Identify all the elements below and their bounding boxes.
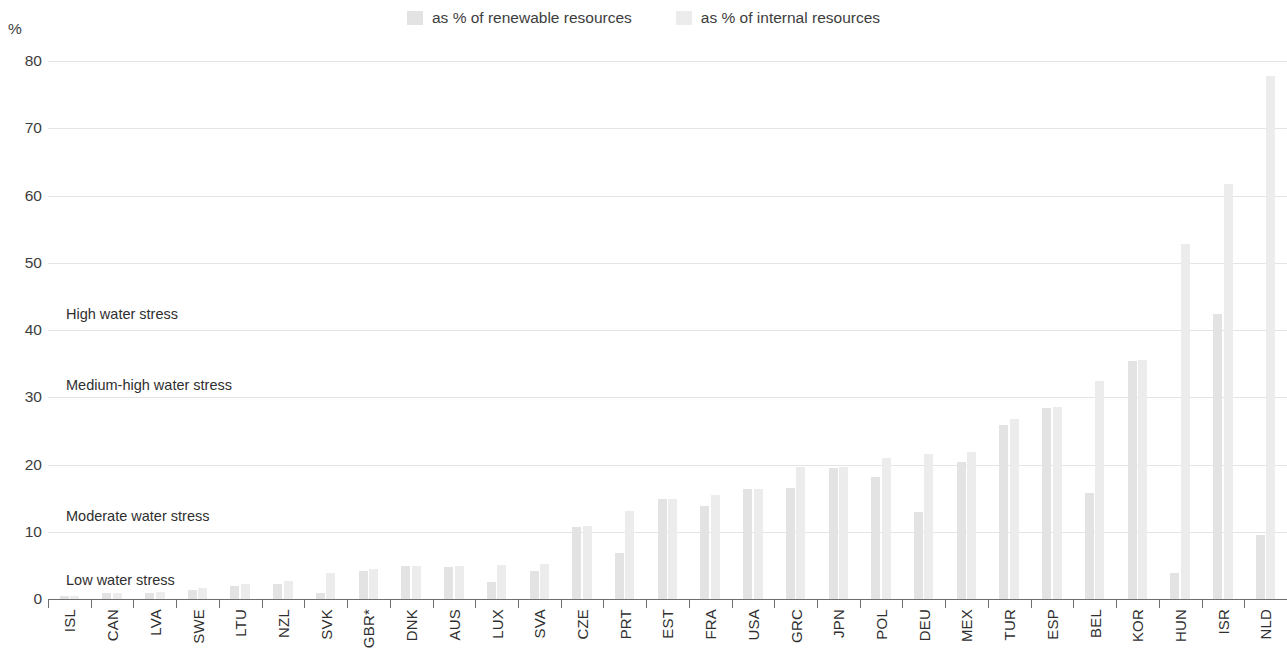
bar[interactable] — [359, 571, 368, 599]
bar-group[interactable] — [646, 61, 689, 599]
bar[interactable] — [871, 477, 880, 599]
bar-group[interactable] — [1244, 61, 1287, 599]
bar[interactable] — [967, 452, 976, 599]
x-axis-tick-label: DNK — [403, 609, 420, 641]
x-axis-label-cell: LVA — [133, 607, 176, 653]
bar-group[interactable] — [561, 61, 604, 599]
bar-group[interactable] — [988, 61, 1031, 599]
bar[interactable] — [444, 567, 453, 599]
bar[interactable] — [583, 526, 592, 599]
y-axis-tick-label: 70 — [2, 119, 42, 137]
x-axis-label-cell: CAN — [91, 607, 134, 653]
bar[interactable] — [1053, 407, 1062, 599]
bar-group[interactable] — [1031, 61, 1074, 599]
bar-group[interactable] — [817, 61, 860, 599]
bar[interactable] — [658, 499, 667, 599]
bar[interactable] — [924, 454, 933, 599]
bar[interactable] — [668, 499, 677, 599]
bar[interactable] — [625, 511, 634, 599]
bar-group[interactable] — [1116, 61, 1159, 599]
x-axis-label-cell: SWE — [176, 607, 219, 653]
bar[interactable] — [839, 467, 848, 599]
bar-group[interactable] — [603, 61, 646, 599]
bar[interactable] — [1170, 573, 1179, 599]
bar-group[interactable] — [91, 61, 134, 599]
bar-group[interactable] — [1159, 61, 1202, 599]
bar[interactable] — [1138, 360, 1147, 599]
bar[interactable] — [369, 569, 378, 599]
bar[interactable] — [401, 566, 410, 599]
bar-group[interactable] — [347, 61, 390, 599]
bar-group[interactable] — [262, 61, 305, 599]
bar[interactable] — [156, 592, 165, 599]
x-axis-tick-label: SVK — [317, 609, 334, 640]
bar-group[interactable] — [304, 61, 347, 599]
bar[interactable] — [999, 425, 1008, 599]
bar[interactable] — [540, 564, 549, 599]
x-axis-tick-label: TUR — [1001, 609, 1018, 640]
bar[interactable] — [412, 566, 421, 599]
bar[interactable] — [487, 582, 496, 599]
bar[interactable] — [1181, 244, 1190, 599]
bar-group[interactable] — [48, 61, 91, 599]
bar[interactable] — [497, 565, 506, 599]
x-axis-label-cell: DEU — [902, 607, 945, 653]
bar[interactable] — [1095, 381, 1104, 599]
bar-group[interactable] — [732, 61, 775, 599]
bar-group[interactable] — [176, 61, 219, 599]
bar[interactable] — [188, 590, 197, 599]
bar-group[interactable] — [689, 61, 732, 599]
bar-group[interactable] — [219, 61, 262, 599]
x-axis-label-cell: TUR — [988, 607, 1031, 653]
bar[interactable] — [786, 488, 795, 599]
bar-group[interactable] — [1073, 61, 1116, 599]
legend-swatch-icon — [407, 11, 423, 25]
bar[interactable] — [1266, 76, 1275, 599]
bar-group[interactable] — [432, 61, 475, 599]
x-axis-label-cell: SVA — [518, 607, 561, 653]
bar[interactable] — [241, 584, 250, 599]
bar[interactable] — [796, 467, 805, 599]
bar[interactable] — [198, 588, 207, 599]
bar-group[interactable] — [774, 61, 817, 599]
bar[interactable] — [829, 468, 838, 599]
x-axis-label-cell: LUX — [475, 607, 518, 653]
x-axis-tick-label: DEU — [915, 609, 932, 641]
x-axis-label-cell: ISR — [1201, 607, 1244, 653]
bar[interactable] — [700, 506, 709, 599]
bar-group[interactable] — [518, 61, 561, 599]
x-axis-tick-label: ISL — [61, 609, 78, 632]
bar-group[interactable] — [902, 61, 945, 599]
bar[interactable] — [326, 573, 335, 599]
bar-group[interactable] — [133, 61, 176, 599]
bar[interactable] — [1128, 361, 1137, 599]
bar[interactable] — [530, 571, 539, 599]
bar[interactable] — [1256, 535, 1265, 599]
bar[interactable] — [1224, 184, 1233, 599]
bar[interactable] — [957, 462, 966, 599]
bar[interactable] — [743, 489, 752, 599]
bar-group[interactable] — [945, 61, 988, 599]
bar[interactable] — [1042, 408, 1051, 599]
x-axis-tick-labels: ISLCANLVASWELTUNZLSVKGBR*DNKAUSLUXSVACZE… — [48, 607, 1287, 653]
legend-item-renewable: as % of renewable resources — [407, 9, 632, 27]
bar[interactable] — [1085, 493, 1094, 599]
bar[interactable] — [284, 581, 293, 599]
x-axis-label-cell: ESP — [1031, 607, 1074, 653]
bar[interactable] — [882, 458, 891, 599]
x-axis-tick-label: LVA — [146, 609, 163, 636]
bar-group[interactable] — [390, 61, 433, 599]
bar-group[interactable] — [860, 61, 903, 599]
bar[interactable] — [455, 566, 464, 599]
bar[interactable] — [711, 495, 720, 599]
bar[interactable] — [754, 489, 763, 599]
bar[interactable] — [914, 512, 923, 599]
bar-group[interactable] — [475, 61, 518, 599]
bar-group[interactable] — [1201, 61, 1244, 599]
bar[interactable] — [615, 553, 624, 599]
bar[interactable] — [1010, 419, 1019, 599]
bar[interactable] — [572, 527, 581, 599]
bar[interactable] — [1213, 314, 1222, 599]
bar[interactable] — [230, 586, 239, 599]
bar[interactable] — [273, 584, 282, 599]
